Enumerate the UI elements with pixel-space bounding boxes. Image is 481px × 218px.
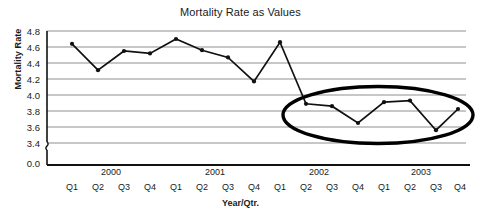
data-line	[72, 39, 458, 130]
q-label-2003-q4: Q4	[447, 182, 473, 192]
chart-container: Mortality Rate as Values Mortality Rate …	[0, 0, 481, 218]
axis-lines	[47, 31, 470, 165]
q-label-2002-q2: Q2	[293, 182, 319, 192]
q-label-2003-q3: Q3	[423, 182, 449, 192]
data-point	[96, 68, 100, 72]
data-point	[148, 51, 152, 55]
x-axis-title: Year/Qtr.	[0, 198, 481, 208]
data-point	[356, 121, 360, 125]
data-point	[200, 48, 204, 52]
year-label-2002: 2002	[294, 167, 344, 177]
data-point	[330, 104, 334, 108]
year-label-2001: 2001	[190, 167, 240, 177]
q-label-2001-q4: Q4	[241, 182, 267, 192]
data-point	[408, 99, 412, 103]
q-label-2002-q1: Q1	[267, 182, 293, 192]
q-label-2003-q2: Q2	[397, 182, 423, 192]
data-point	[174, 37, 178, 41]
q-label-2001-q1: Q1	[163, 182, 189, 192]
q-label-2000-q1: Q1	[59, 182, 85, 192]
data-point	[226, 55, 230, 59]
q-label-2000-q2: Q2	[85, 182, 111, 192]
q-label-2000-q3: Q3	[111, 182, 137, 192]
data-point	[70, 42, 74, 46]
data-point	[434, 128, 438, 132]
data-point	[304, 102, 308, 106]
q-label-2003-q1: Q1	[371, 182, 397, 192]
q-label-2001-q3: Q3	[215, 182, 241, 192]
data-point	[278, 40, 282, 44]
q-label-2002-q3: Q3	[319, 182, 345, 192]
data-point	[456, 107, 460, 111]
data-point	[122, 49, 126, 53]
q-label-2001-q2: Q2	[189, 182, 215, 192]
q-label-2002-q4: Q4	[345, 182, 371, 192]
q-label-2000-q4: Q4	[137, 182, 163, 192]
year-label-2000: 2000	[86, 167, 136, 177]
data-point	[382, 100, 386, 104]
data-point	[252, 79, 256, 83]
year-label-2003: 2003	[396, 167, 446, 177]
